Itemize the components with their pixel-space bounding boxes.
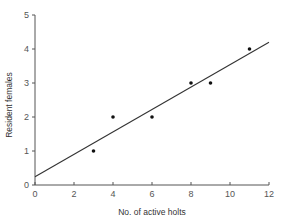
x-axis-label: No. of active holts: [118, 207, 186, 217]
data-point: [189, 81, 193, 85]
data-point: [111, 115, 115, 119]
y-tick-label: 4: [24, 44, 29, 54]
x-tick-label: 4: [110, 189, 115, 199]
y-tick-label: 5: [24, 10, 29, 20]
x-tick-label: 6: [149, 189, 154, 199]
y-tick-label: 0: [24, 180, 29, 190]
x-tick-label: 8: [188, 189, 193, 199]
data-point: [92, 149, 96, 153]
scatter-chart: 024681012012345No. of active holtsReside…: [0, 0, 285, 224]
y-tick-label: 1: [24, 146, 29, 156]
x-tick-label: 2: [71, 189, 76, 199]
y-tick-label: 3: [24, 78, 29, 88]
y-tick-label: 2: [24, 112, 29, 122]
regression-line: [35, 42, 269, 177]
x-tick-label: 0: [32, 189, 37, 199]
x-tick-label: 12: [264, 189, 274, 199]
x-tick-label: 10: [225, 189, 235, 199]
data-point: [209, 81, 213, 85]
y-axis-label: Resident females: [4, 72, 14, 138]
data-point: [150, 115, 154, 119]
data-point: [248, 47, 252, 51]
